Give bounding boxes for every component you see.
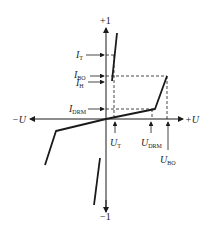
label-ubo: UBO xyxy=(160,122,176,166)
label-idrm: IDRM xyxy=(68,103,104,115)
svg-text:UDRM: UDRM xyxy=(141,137,163,149)
characteristic-diagram: +1 −1 +U −U IT IBO IH IDRM UT UDRM UBO xyxy=(0,0,208,238)
label-it: IT xyxy=(75,49,104,61)
svg-text:IDRM: IDRM xyxy=(68,103,87,115)
y-negative-label: −1 xyxy=(100,211,111,222)
label-udrm: UDRM xyxy=(141,122,163,149)
svg-text:UT: UT xyxy=(110,137,121,149)
svg-text:IBO: IBO xyxy=(73,69,86,81)
svg-text:IT: IT xyxy=(75,49,83,61)
x-negative-label: −U xyxy=(12,114,27,125)
y-positive-label: +1 xyxy=(100,15,111,26)
label-ut: UT xyxy=(110,122,121,149)
dashed-guides xyxy=(106,55,167,119)
x-positive-label: +U xyxy=(185,114,200,125)
svg-text:UBO: UBO xyxy=(160,154,176,166)
